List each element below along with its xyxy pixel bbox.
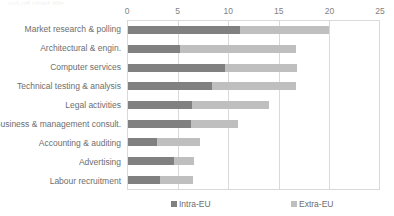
bar-row (128, 58, 379, 77)
category-label: Labour recruitment (0, 171, 124, 190)
stacked-bar (128, 157, 194, 165)
bar-segment-extra-eu (240, 26, 328, 34)
legend-label-extra-eu: Extra-EU (299, 198, 333, 210)
stacked-bar (128, 138, 200, 146)
bar-segment-intra-eu (128, 138, 157, 146)
legend-swatch-intra-eu (171, 201, 177, 207)
x-tick-label: 20 (325, 5, 334, 17)
category-label: Architectural & engin. (0, 39, 124, 58)
bar-segment-extra-eu (212, 82, 295, 90)
category-label: Computer services (0, 58, 124, 77)
stacked-bar (128, 101, 269, 109)
category-label: Business & management consult. (0, 114, 124, 133)
bar-segment-intra-eu (128, 45, 180, 53)
plot-area (127, 20, 380, 190)
legend-item-extra-eu: Extra-EU (291, 198, 333, 210)
bar-segment-extra-eu (225, 64, 296, 72)
x-tick-label: 10 (223, 5, 232, 17)
category-axis-labels: Market research & pollingArchitectural &… (0, 20, 124, 190)
bar-row (128, 133, 379, 152)
bar-segment-extra-eu (157, 138, 200, 146)
bar-row (128, 114, 379, 133)
x-tick-label: 5 (175, 5, 180, 17)
bar-segment-intra-eu (128, 26, 240, 34)
bar-row (128, 21, 379, 40)
category-label: Advertising (0, 152, 124, 171)
bar-row (128, 40, 379, 59)
bar-segment-extra-eu (174, 157, 194, 165)
category-label: Accounting & auditing (0, 133, 124, 152)
legend-label-intra-eu: Intra-EU (179, 198, 211, 210)
bar-segment-intra-eu (128, 101, 192, 109)
bar-segment-extra-eu (180, 45, 295, 53)
bar-segment-extra-eu (160, 176, 193, 184)
bar-row (128, 152, 379, 171)
x-tick-label: 25 (375, 5, 384, 17)
stacked-bar (128, 120, 238, 128)
stacked-bar (128, 176, 193, 184)
category-label: Technical testing & analysis (0, 77, 124, 96)
chart-legend: Intra-EU Extra-EU (127, 198, 380, 212)
category-label: Legal activities (0, 96, 124, 115)
x-tick-label: 0 (125, 5, 130, 17)
bar-segment-extra-eu (191, 120, 238, 128)
bar-segment-intra-eu (128, 64, 225, 72)
x-tick-label: 15 (274, 5, 283, 17)
bar-row (128, 77, 379, 96)
bar-segment-intra-eu (128, 120, 191, 128)
bar-row (128, 96, 379, 115)
x-axis-tick-labels: 0510152025 (127, 5, 380, 17)
bar-row (128, 170, 379, 189)
category-label: Market research & polling (0, 20, 124, 39)
bar-rows (128, 21, 379, 189)
stacked-bar (128, 26, 329, 34)
bar-segment-intra-eu (128, 176, 160, 184)
stacked-bar-chart: cut-off chart title 0510152025 Market re… (0, 0, 394, 216)
bar-segment-extra-eu (192, 101, 268, 109)
legend-swatch-extra-eu (291, 201, 297, 207)
bar-segment-intra-eu (128, 82, 212, 90)
stacked-bar (128, 64, 297, 72)
bar-segment-intra-eu (128, 157, 174, 165)
legend-item-intra-eu: Intra-EU (171, 198, 211, 210)
stacked-bar (128, 45, 296, 53)
stacked-bar (128, 82, 296, 90)
